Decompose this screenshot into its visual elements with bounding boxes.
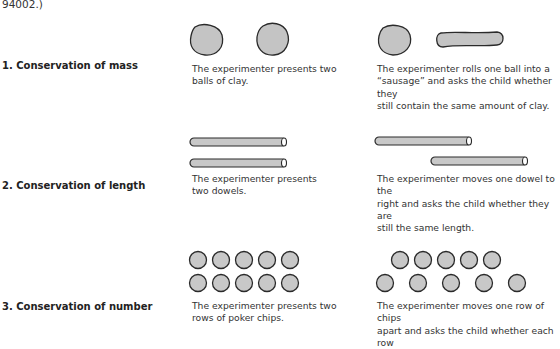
clay-ball-right-icon: [255, 22, 291, 58]
top-note: 94002.): [2, 0, 43, 10]
clay-ball-left-icon: [189, 23, 225, 57]
clay-ball-icon: [377, 24, 413, 57]
dowel-moved-icon: [430, 155, 530, 167]
row-label-length: 2. Conservation of length: [2, 180, 145, 191]
row-label-number: 3. Conservation of number: [2, 301, 152, 312]
clay-sausage-icon: [435, 30, 505, 50]
caption-mass-before: The experimenter presents two balls of c…: [192, 63, 372, 88]
caption-length-before: The experimenter presents two dowels.: [192, 173, 372, 198]
poker-chips-before-icon: [188, 251, 313, 293]
poker-chips-after-icon: [374, 251, 534, 293]
dowel-bottom-icon: [189, 157, 289, 169]
caption-number-after: The experimenter moves one row of chips …: [377, 300, 560, 349]
dowel-top-icon: [189, 136, 289, 148]
dowel-unmoved-icon: [374, 135, 474, 147]
caption-mass-after: The experimenter rolls one ball into a “…: [377, 63, 560, 112]
caption-number-before: The experimenter presents two rows of po…: [192, 300, 372, 325]
row-label-mass: 1. Conservation of mass: [2, 60, 138, 71]
caption-length-after: The experimenter moves one dowel to the …: [377, 173, 560, 234]
